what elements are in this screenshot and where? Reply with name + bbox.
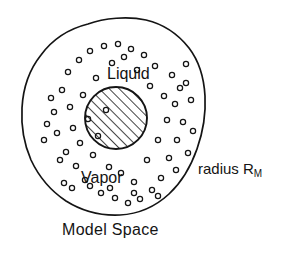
vapor-label: Vapor — [81, 170, 123, 186]
liquid-droplet — [85, 87, 147, 149]
radius-label: radius RM — [198, 161, 262, 176]
liquid-label: Liquid — [107, 66, 150, 82]
radius-subscript: M — [254, 168, 262, 179]
model-space-figure — [0, 0, 285, 253]
radius-label-text: radius R — [198, 160, 254, 177]
model-space-label: Model Space — [62, 222, 159, 238]
